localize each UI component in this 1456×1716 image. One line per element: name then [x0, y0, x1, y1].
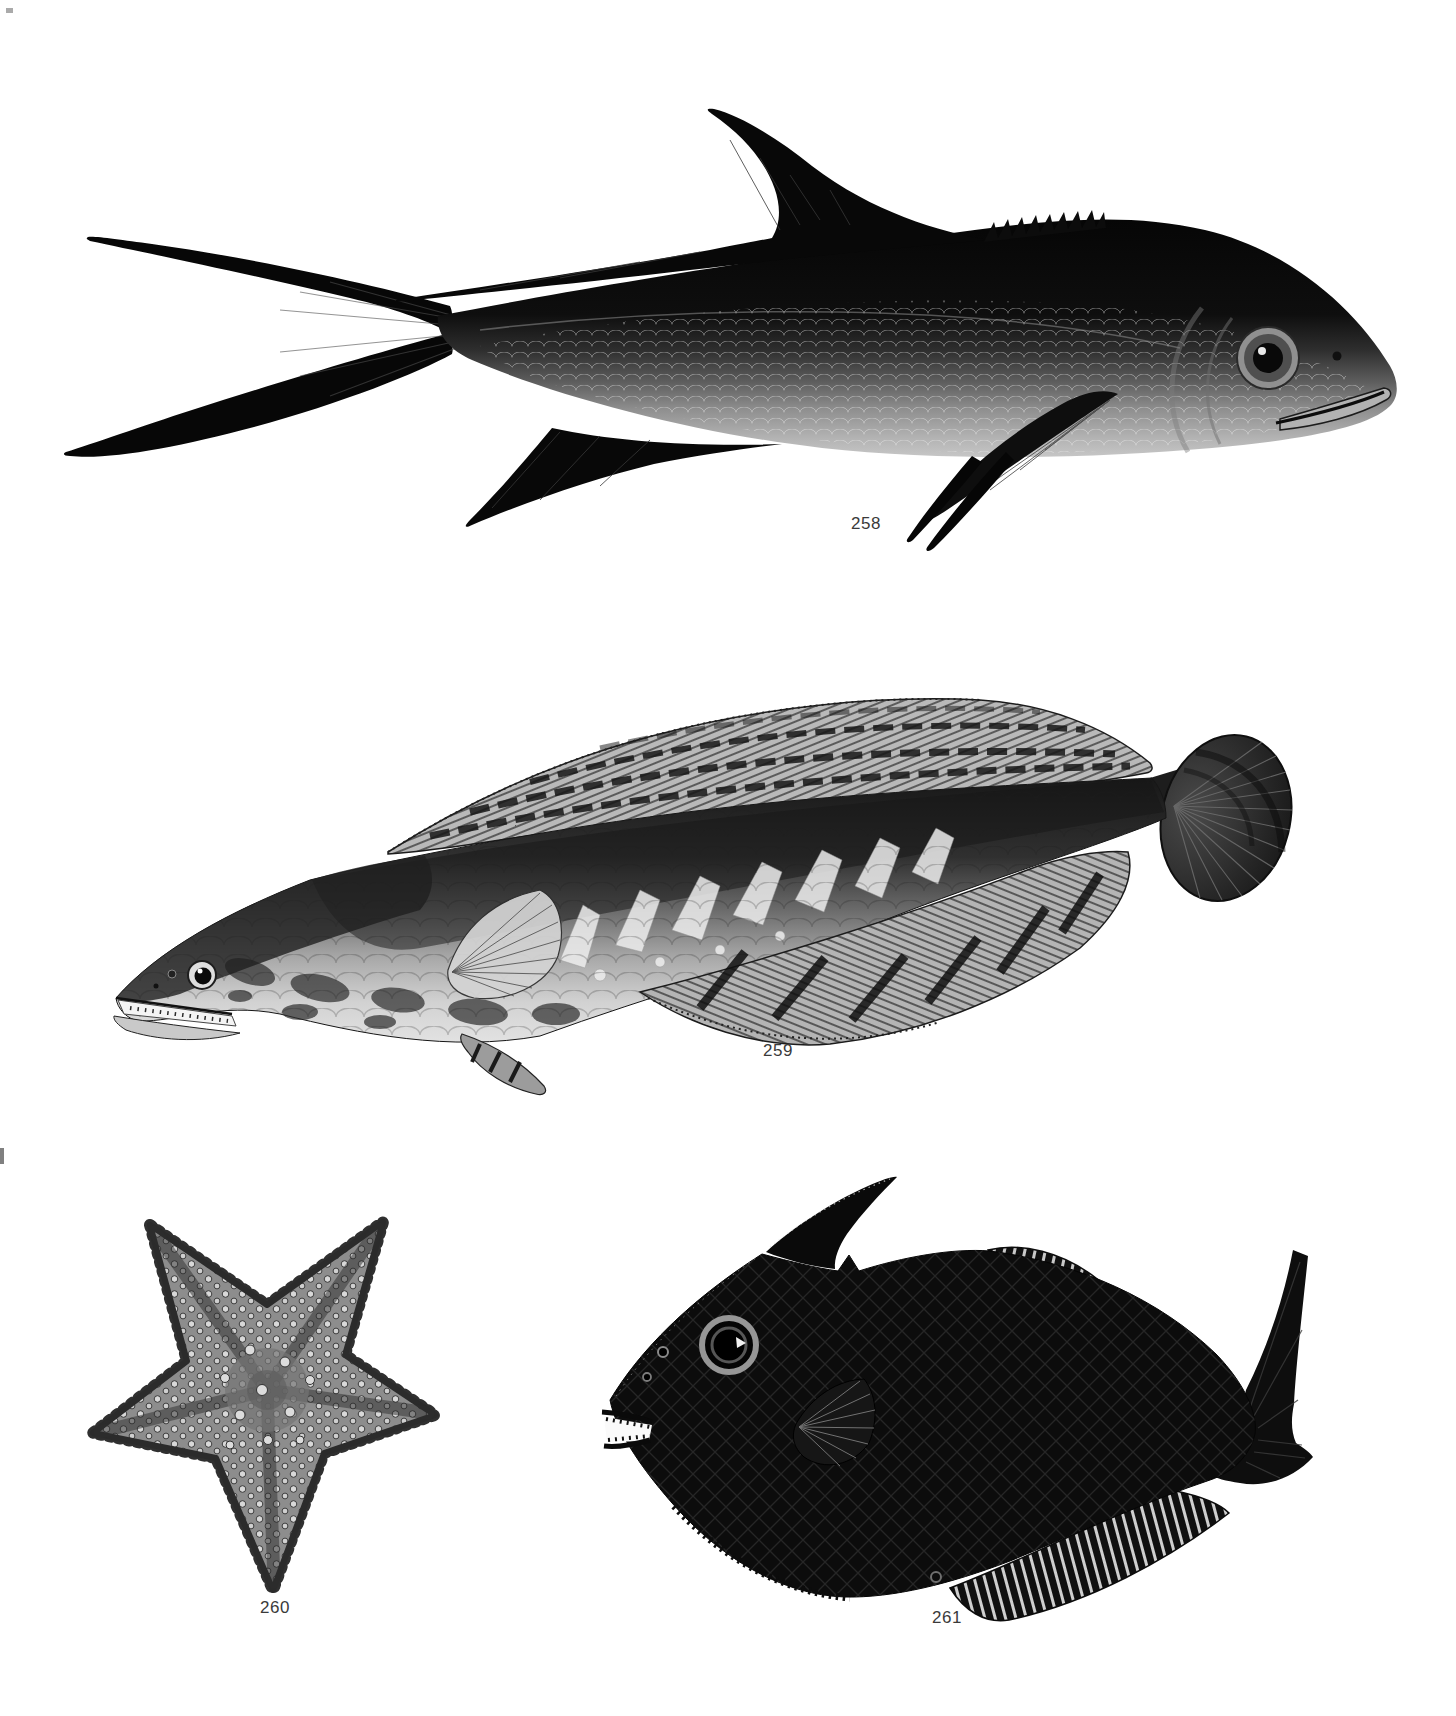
figure-259-snakehead-fish [114, 699, 1309, 1095]
caudal-fin [1144, 721, 1309, 915]
eye [702, 1318, 756, 1372]
vent-ring [931, 1572, 941, 1582]
mouth [602, 1412, 652, 1447]
head-spot [1333, 352, 1342, 361]
figure-caption-260: 260 [260, 1598, 290, 1618]
scan-artifact-edge [0, 1148, 4, 1164]
figure-caption-258: 258 [851, 514, 881, 534]
caudal-fin-upper-lobe [87, 237, 452, 331]
nostril-ring-upper [658, 1347, 668, 1357]
scan-artifact-corner [6, 8, 13, 13]
nostril-ring [168, 970, 176, 978]
illustration-plate: 258 259 260 261 [0, 0, 1456, 1716]
figure-caption-259: 259 [763, 1041, 793, 1061]
eye [1237, 327, 1299, 389]
dorsal-spine-horn [766, 1177, 897, 1269]
eye [188, 961, 216, 989]
plate-svg [0, 0, 1456, 1716]
figure-260-sea-star [93, 1222, 435, 1590]
pelvic-fin [461, 1034, 546, 1095]
figure-caption-261: 261 [932, 1608, 962, 1628]
nostril-dot [154, 984, 159, 989]
figure-261-filefish [602, 1177, 1313, 1621]
figure-258-forked-tail-fish [64, 109, 1397, 551]
nostril-ring-lower [643, 1373, 651, 1381]
anal-fin [466, 428, 782, 527]
caudal-fin-lower-lobe [64, 334, 453, 457]
